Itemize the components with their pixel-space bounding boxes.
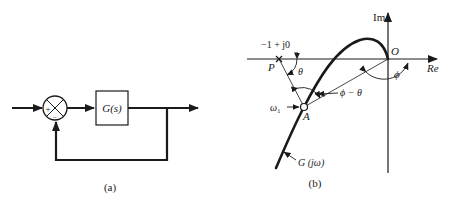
block-diagram-a: + − G(s) (a): [12, 91, 198, 194]
summing-junction: + −: [43, 96, 67, 122]
phi-label: ϕ: [394, 68, 400, 80]
caption-a: (a): [104, 181, 117, 194]
phi-minus-theta-pointer: [318, 93, 338, 94]
critical-point-label: −1 + j0: [261, 39, 290, 50]
curve-label-pointer: [284, 152, 296, 160]
curve-label: G (jω): [298, 157, 325, 169]
phi-arc: [366, 63, 408, 79]
block-label: G(s): [102, 102, 122, 115]
nyquist-diagram-b: Im Re O −1 + j0 P A ω1 θ ϕ ϕ − θ: [247, 11, 439, 190]
origin-label: O: [391, 45, 399, 57]
point-p-label: P: [267, 61, 275, 73]
nyquist-curve: [276, 39, 388, 168]
minus-sign: −: [53, 114, 57, 122]
caption-b: (b): [309, 177, 322, 190]
theta-label: θ: [298, 66, 303, 77]
im-axis-label: Im: [373, 11, 386, 23]
omega-label: ω1: [270, 102, 281, 115]
re-axis-label: Re: [426, 62, 439, 74]
point-a-label: A: [302, 110, 310, 122]
phi-minus-theta-label: ϕ − θ: [340, 87, 362, 98]
theta-arc: [287, 59, 297, 75]
plus-sign: +: [45, 104, 50, 114]
figure-canvas: + − G(s) (a) Im Re O −1 + j0 P: [0, 0, 450, 204]
